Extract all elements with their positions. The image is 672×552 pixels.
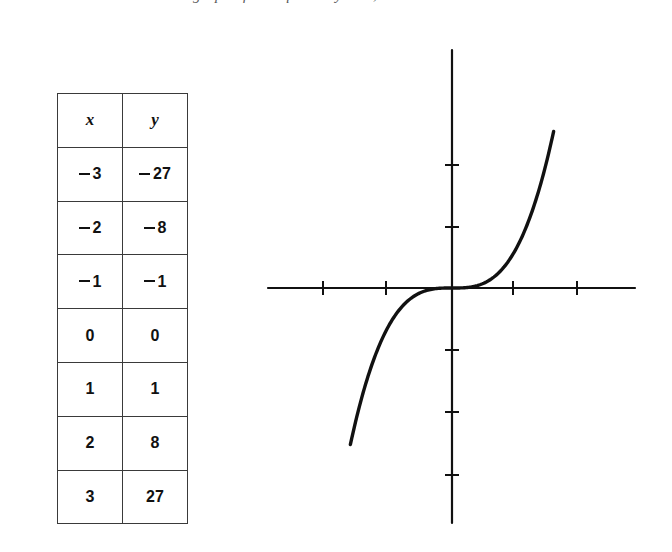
minus-sign-icon: [79, 280, 90, 282]
cell-y: 1: [123, 255, 188, 309]
table-row: 1 1: [58, 362, 188, 416]
table-row: 3 27: [58, 147, 188, 201]
table-row: 0 0: [58, 309, 188, 363]
cell-y: 27: [123, 470, 188, 524]
cell-x: 1: [58, 362, 123, 416]
cell-x: 3: [58, 470, 123, 524]
cell-y: 8: [123, 201, 188, 255]
cell-y: 27: [123, 147, 188, 201]
cell-x: 0: [58, 309, 123, 363]
cell-x: 3: [58, 147, 123, 201]
minus-sign-icon: [144, 227, 155, 229]
minus-sign-icon: [79, 173, 90, 175]
cell-x: 2: [58, 201, 123, 255]
minus-sign-icon: [139, 173, 150, 175]
cell-x: 2: [58, 416, 123, 470]
xy-value-table: x y 3 27 2 8 1 1 0 0 1 1 2 8 3 27: [57, 93, 188, 524]
table-row: 1 1: [58, 255, 188, 309]
cell-y: 0: [123, 309, 188, 363]
table-row: 2 8: [58, 201, 188, 255]
table-row: 2 8: [58, 416, 188, 470]
minus-sign-icon: [144, 280, 155, 282]
table-header-row: x y: [58, 94, 188, 148]
graph-canvas: [250, 0, 672, 552]
cell-x: 1: [58, 255, 123, 309]
cell-y: 8: [123, 416, 188, 470]
column-header-x: x: [58, 94, 123, 148]
table-row: 3 27: [58, 470, 188, 524]
minus-sign-icon: [79, 227, 90, 229]
cell-y: 1: [123, 362, 188, 416]
column-header-y: y: [123, 94, 188, 148]
cubic-graph: y x y=x3: [250, 0, 672, 552]
